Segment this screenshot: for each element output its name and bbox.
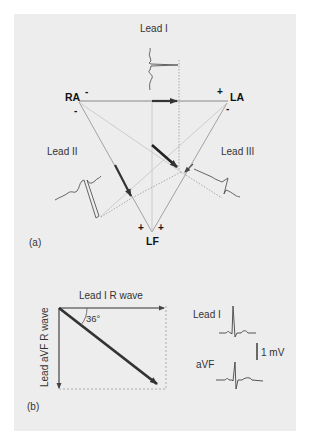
lead-i-trace-label: Lead I xyxy=(193,310,221,320)
lf-polarity-right: + xyxy=(158,223,164,233)
lf-polarity-left: + xyxy=(138,223,144,233)
ra-polarity-top: - xyxy=(85,87,88,97)
lead-i-label: Lead I xyxy=(140,24,168,34)
avf-trace-label: aVF xyxy=(196,360,214,370)
y-axis-label: Lead aVF R wave xyxy=(40,308,50,388)
ra-electrode-label: RA xyxy=(65,92,80,103)
lead-ii-arrow xyxy=(115,165,131,196)
lead-iii-label: Lead III xyxy=(221,147,254,157)
lf-electrode-label: LF xyxy=(146,236,159,247)
mean-axis-arrow xyxy=(152,145,177,167)
projection-lines xyxy=(80,101,226,232)
lead-iii-arrow xyxy=(185,164,193,172)
avf-ecg-trace xyxy=(216,362,263,389)
lead-i-trace xyxy=(149,48,178,90)
scale-bar-label: 1 mV xyxy=(261,348,284,358)
la-polarity-bottom: - xyxy=(226,104,229,114)
lead-ii-trace xyxy=(55,176,101,218)
la-electrode-label: LA xyxy=(230,92,244,103)
lead-i-ecg-trace xyxy=(219,306,256,337)
la-polarity-top: + xyxy=(217,87,223,97)
ra-polarity-bottom: - xyxy=(74,106,77,116)
panel-a-label: (a) xyxy=(29,238,41,248)
angle-label: 36° xyxy=(86,314,100,324)
vector-diagram xyxy=(59,306,166,389)
triangle xyxy=(79,101,228,232)
panel-b-label: (b) xyxy=(27,402,39,412)
dotted-guides xyxy=(101,60,222,217)
x-axis-label: Lead I R wave xyxy=(79,291,143,301)
lead-iii-trace xyxy=(194,169,240,197)
lead-ii-label: Lead II xyxy=(47,147,78,157)
